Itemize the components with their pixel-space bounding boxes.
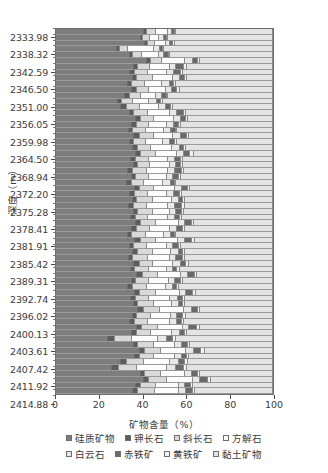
bar-segment — [56, 388, 133, 394]
legend: 硅质矿物钾长石斜长石方解石 白云石赤铁矿黄铁矿黏土矿物 — [0, 431, 328, 463]
legend-swatch-icon — [174, 435, 180, 441]
y-axis-tick-label: 2396.02 — [10, 311, 48, 322]
y-axis-tick-label: 2356.05 — [10, 119, 48, 130]
legend-label: 黏土矿物 — [222, 447, 262, 461]
legend-item[interactable]: 钾长石 — [125, 431, 164, 445]
x-axis-title: 矿物含量（%） — [0, 417, 328, 431]
legend-label: 黄铁矿 — [173, 447, 203, 461]
x-axis-labels: 020406080100 — [55, 399, 274, 413]
y-axis-tick-label: 2407.42 — [10, 363, 48, 374]
x-axis-tick-label: 60 — [180, 399, 192, 410]
legend-swatch-icon — [115, 451, 121, 457]
legend-swatch-icon — [164, 451, 170, 457]
legend-swatch-icon — [66, 435, 72, 441]
y-axis-labels: 2333.982338.322342.592346.502351.002356.… — [0, 28, 52, 395]
legend-row-1: 硅质矿物钾长石斜长石方解石 — [0, 431, 328, 445]
legend-label: 方解石 — [232, 431, 262, 445]
legend-item[interactable]: 黏土矿物 — [213, 447, 262, 461]
y-axis-tick-label: 2403.61 — [10, 346, 48, 357]
chart-page: 深度（m） 2333.982338.322342.592346.502351.0… — [0, 0, 328, 473]
y-axis-tick-label: 2372.20 — [10, 189, 48, 200]
x-axis-tick-label: 20 — [93, 399, 105, 410]
x-axis-tick-label: 0 — [52, 399, 58, 410]
bar-segment — [138, 388, 154, 394]
legend-item[interactable]: 斜长石 — [174, 431, 213, 445]
bar-row — [56, 388, 273, 394]
x-axis-tick-label: 100 — [265, 399, 283, 410]
legend-item[interactable]: 黄铁矿 — [164, 447, 203, 461]
legend-swatch-icon — [223, 435, 229, 441]
legend-item[interactable]: 白云石 — [66, 447, 105, 461]
y-axis-tick-label: 2414.88 — [10, 398, 48, 409]
legend-swatch-icon — [125, 435, 131, 441]
legend-item[interactable]: 赤铁矿 — [115, 447, 154, 461]
y-axis-tick-label: 2346.50 — [10, 84, 48, 95]
legend-label: 硅质矿物 — [75, 431, 115, 445]
x-axis-tick-label: 40 — [137, 399, 149, 410]
y-axis-tick-label: 2342.59 — [10, 66, 48, 77]
y-axis-tick-label: 2389.31 — [10, 276, 48, 287]
legend-label: 斜长石 — [183, 431, 213, 445]
y-axis-tick-label: 2392.74 — [10, 293, 48, 304]
legend-swatch-icon — [213, 451, 219, 457]
y-axis-tick-label: 2375.28 — [10, 206, 48, 217]
x-axis-tick-label: 80 — [224, 399, 236, 410]
bar-segment — [179, 388, 187, 394]
legend-item[interactable]: 方解石 — [223, 431, 262, 445]
y-axis-tick-label: 2338.32 — [10, 49, 48, 60]
y-axis-tick-label: 2368.94 — [10, 171, 48, 182]
legend-item[interactable]: 硅质矿物 — [66, 431, 115, 445]
legend-label: 白云石 — [75, 447, 105, 461]
y-axis-tick-label: 2381.91 — [10, 241, 48, 252]
legend-swatch-icon — [66, 451, 72, 457]
y-axis-tick-label: 2378.41 — [10, 223, 48, 234]
y-axis-tick-label: 2333.98 — [10, 31, 48, 42]
stacked-bars — [56, 29, 273, 394]
y-axis-tick-label: 2351.00 — [10, 101, 48, 112]
bar-segment — [155, 388, 179, 394]
legend-label: 赤铁矿 — [124, 447, 154, 461]
legend-row-2: 白云石赤铁矿黄铁矿黏土矿物 — [0, 447, 328, 461]
plot-area — [55, 28, 274, 395]
bar-segment — [195, 388, 273, 394]
y-axis-tick-label: 2385.42 — [10, 258, 48, 269]
y-axis-tick-label: 2400.13 — [10, 328, 48, 339]
y-axis-tick-label: 2411.92 — [10, 381, 48, 392]
legend-label: 钾长石 — [134, 431, 164, 445]
y-axis-tick-label: 2359.98 — [10, 136, 48, 147]
y-axis-tick-label: 2364.50 — [10, 154, 48, 165]
